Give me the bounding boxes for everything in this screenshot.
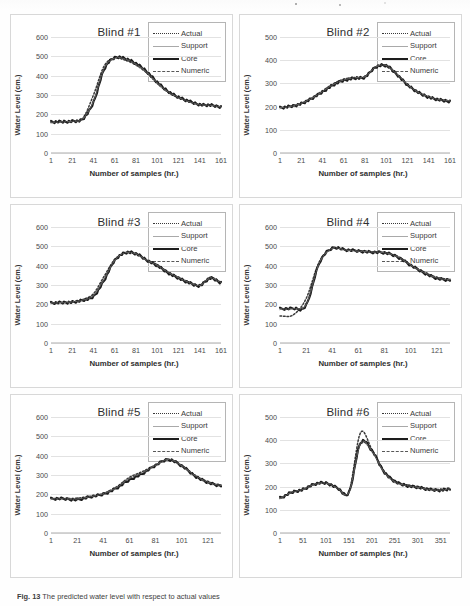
series-line-core — [51, 251, 221, 304]
series-layer — [280, 417, 450, 533]
y-tick-label: 100 — [265, 319, 277, 328]
x-tick-label: 81 — [132, 156, 140, 165]
x-tick-label: 141 — [423, 156, 435, 165]
x-axis-label: Number of samples (hr.) — [39, 549, 229, 558]
chart-row-2: Blind #3ActualSupportCoreNumericWater Le… — [10, 204, 462, 388]
figure-caption: Fig. 13 The predicted water level with r… — [17, 592, 457, 606]
y-axis-label: Water Level (cm.) — [242, 437, 251, 533]
y-tick-label: 100 — [36, 129, 48, 138]
y-axis-label: Water Level (cm.) — [242, 247, 251, 343]
plot-area — [280, 37, 450, 153]
y-tick-label: 200 — [265, 300, 277, 309]
plot-area — [280, 417, 450, 533]
y-tick-label: 0 — [44, 529, 48, 538]
x-tick-label: 61 — [125, 536, 133, 545]
x-tick-label: 121 — [173, 346, 185, 355]
x-tick-label: 151 — [343, 536, 355, 545]
y-tick-label: 0 — [273, 339, 277, 348]
figure-caption-label: Fig. 13 — [17, 592, 40, 601]
x-tick-label: 251 — [389, 536, 401, 545]
series-line-actual — [51, 459, 221, 498]
x-tick-label: 101 — [151, 346, 163, 355]
x-tick-label: 21 — [68, 346, 76, 355]
x-tick-label: 41 — [319, 156, 327, 165]
y-tick-label: 500 — [36, 242, 48, 251]
x-axis-ticks: 151101151201251301351 — [280, 536, 450, 547]
x-axis-ticks: 121416181101121 — [51, 536, 221, 547]
y-tick-label: 600 — [265, 223, 277, 232]
y-tick-label: 200 — [265, 102, 277, 111]
chart-panel-blind-2[interactable]: Blind #2ActualSupportCoreNumericWater Le… — [239, 14, 462, 198]
x-tick-label: 41 — [90, 156, 98, 165]
chart-row-3: Blind #5ActualSupportCoreNumericWater Le… — [10, 394, 462, 578]
y-tick-label: 200 — [36, 300, 48, 309]
y-axis-ticks: 0100200300400500600 — [23, 417, 48, 533]
x-tick-label: 141 — [194, 346, 206, 355]
y-tick-label: 500 — [36, 432, 48, 441]
x-axis-line — [51, 532, 221, 533]
x-axis-ticks: 121416181101121 — [280, 346, 450, 357]
y-tick-label: 400 — [36, 451, 48, 460]
y-axis-label: Water Level (cm.) — [13, 437, 22, 533]
x-axis-ticks: 121416181101121141161 — [51, 346, 221, 357]
y-axis-ticks: 0100200300400500600 — [23, 37, 48, 153]
y-tick-label: 500 — [36, 52, 48, 61]
x-tick-label: 121 — [431, 346, 443, 355]
y-tick-label: 600 — [36, 223, 48, 232]
figure-page: Blind #1ActualSupportCoreNumericWater Le… — [0, 0, 470, 606]
y-tick-label: 0 — [273, 529, 277, 538]
x-tick-label: 101 — [320, 536, 332, 545]
x-axis-line — [280, 532, 450, 533]
x-axis-line — [51, 342, 221, 343]
series-line-support — [51, 252, 221, 304]
y-axis-ticks: 0100200300400500 — [252, 37, 277, 153]
y-tick-label: 600 — [36, 33, 48, 42]
chart-row-1: Blind #1ActualSupportCoreNumericWater Le… — [10, 14, 462, 198]
y-axis-label: Water Level (cm.) — [242, 57, 251, 153]
series-layer — [51, 227, 221, 343]
series-line-numeric — [51, 57, 221, 122]
chart-panel-blind-5[interactable]: Blind #5ActualSupportCoreNumericWater Le… — [10, 394, 233, 578]
x-tick-label: 41 — [99, 536, 107, 545]
x-axis-ticks: 121416181101121141161 — [280, 156, 450, 167]
y-axis-ticks: 0100200300400500600 — [23, 227, 48, 343]
x-tick-label: 1 — [278, 536, 282, 545]
y-tick-label: 0 — [44, 149, 48, 158]
chart-panel-blind-4[interactable]: Blind #4ActualSupportCoreNumericWater Le… — [239, 204, 462, 388]
series-line-core — [51, 459, 221, 501]
series-line-support — [51, 459, 221, 501]
x-tick-label: 21 — [302, 346, 310, 355]
series-line-actual — [51, 252, 221, 303]
chart-panel-blind-6[interactable]: Blind #6ActualSupportCoreNumericWater Le… — [239, 394, 462, 578]
x-tick-label: 1 — [49, 536, 53, 545]
x-tick-label: 81 — [361, 156, 369, 165]
chart-grid: Blind #1ActualSupportCoreNumericWater Le… — [10, 14, 462, 584]
chart-panel-blind-1[interactable]: Blind #1ActualSupportCoreNumericWater Le… — [10, 14, 233, 198]
x-tick-label: 41 — [90, 346, 98, 355]
y-tick-label: 500 — [265, 413, 277, 422]
x-tick-label: 41 — [328, 346, 336, 355]
x-tick-label: 101 — [405, 346, 417, 355]
y-tick-label: 300 — [36, 471, 48, 480]
y-tick-label: 200 — [265, 482, 277, 491]
x-tick-label: 301 — [412, 536, 424, 545]
scan-artifact-top — [0, 0, 470, 14]
x-axis-label: Number of samples (hr.) — [39, 359, 229, 368]
chart-panel-blind-3[interactable]: Blind #3ActualSupportCoreNumericWater Le… — [10, 204, 233, 388]
x-tick-label: 81 — [152, 536, 160, 545]
y-axis-ticks: 0100200300400500 — [252, 417, 277, 533]
x-tick-label: 101 — [151, 156, 163, 165]
x-tick-label: 121 — [202, 536, 214, 545]
x-axis-line — [51, 152, 221, 153]
x-tick-label: 161 — [444, 156, 456, 165]
series-line-numeric — [51, 252, 221, 303]
x-tick-label: 161 — [215, 346, 227, 355]
y-tick-label: 200 — [36, 110, 48, 119]
x-tick-label: 51 — [299, 536, 307, 545]
series-layer — [51, 37, 221, 153]
x-tick-label: 1 — [278, 346, 282, 355]
y-tick-label: 100 — [36, 319, 48, 328]
series-line-core — [51, 56, 221, 123]
y-tick-label: 400 — [265, 56, 277, 65]
x-tick-label: 21 — [297, 156, 305, 165]
